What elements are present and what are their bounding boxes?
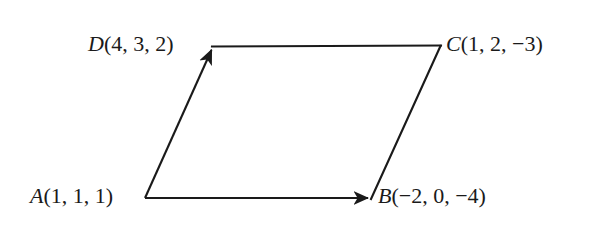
edge-a-to-d: [145, 50, 212, 198]
vertex-coords-c: (1, 2, −3): [461, 31, 543, 56]
vertex-label-c: C(1, 2, −3): [446, 33, 543, 55]
vertex-label-d: D(4, 3, 2): [88, 33, 174, 55]
parallelogram-figure: D(4, 3, 2) C(1, 2, −3) A(1, 1, 1) B(−2, …: [0, 0, 596, 226]
vertex-name-a: A: [30, 183, 43, 208]
edge-d-to-c: [212, 46, 441, 47]
vertex-name-d: D: [88, 31, 104, 56]
vertex-label-b: B(−2, 0, −4): [378, 185, 486, 207]
vertex-coords-d: (4, 3, 2): [104, 31, 174, 56]
vertex-coords-b: (−2, 0, −4): [391, 183, 485, 208]
vertex-name-c: C: [446, 31, 461, 56]
edge-c-to-b: [371, 46, 441, 199]
vertex-coords-a: (1, 1, 1): [43, 183, 113, 208]
vertex-name-b: B: [378, 183, 391, 208]
vertex-label-a: A(1, 1, 1): [30, 185, 113, 207]
